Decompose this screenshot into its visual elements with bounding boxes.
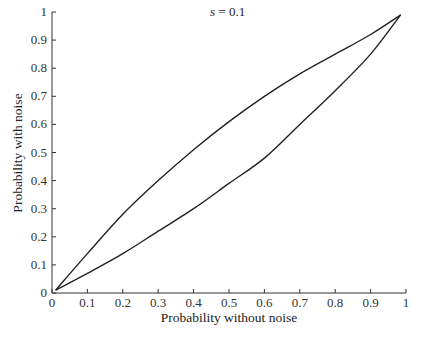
y-tick-label: 0.7 <box>31 88 48 103</box>
x-tick-label: 0.7 <box>292 295 309 310</box>
y-tick-label: 0 <box>41 285 48 300</box>
x-tick-label: 0.8 <box>327 295 343 310</box>
curves <box>56 15 401 290</box>
y-tick-label: 0.2 <box>31 229 47 244</box>
upper-curve <box>56 15 401 290</box>
y-tick-label: 0.4 <box>31 173 48 188</box>
lower-curve <box>56 15 401 290</box>
x-tick-label: 0.4 <box>185 295 202 310</box>
y-tick-label: 0.6 <box>31 116 48 131</box>
y-tick-label: 1 <box>41 4 48 19</box>
x-axis-label: Probability without noise <box>161 310 298 325</box>
x-tick-label: 0 <box>49 295 56 310</box>
y-tick-label: 0.9 <box>31 32 47 47</box>
x-tick-label: 1 <box>403 295 410 310</box>
x-tick-label: 0.3 <box>150 295 166 310</box>
y-tick-label: 0.8 <box>31 60 47 75</box>
x-tick-label: 0.1 <box>79 295 95 310</box>
y-tick-label: 0.1 <box>31 257 47 272</box>
y-tick-label: 0.5 <box>31 145 47 160</box>
y-axis-label: Probability with noise <box>10 93 25 212</box>
y-tick-label: 0.3 <box>31 201 47 216</box>
x-tick-label: 0.5 <box>221 295 237 310</box>
x-tick-label: 0.6 <box>256 295 273 310</box>
annotation: s = 0.1 <box>210 4 245 19</box>
axes: 00.10.20.30.40.50.60.70.80.9100.10.20.30… <box>31 4 410 310</box>
x-tick-label: 0.9 <box>362 295 378 310</box>
x-tick-label: 0.2 <box>115 295 131 310</box>
chart: 00.10.20.30.40.50.60.70.80.9100.10.20.30… <box>0 0 421 338</box>
